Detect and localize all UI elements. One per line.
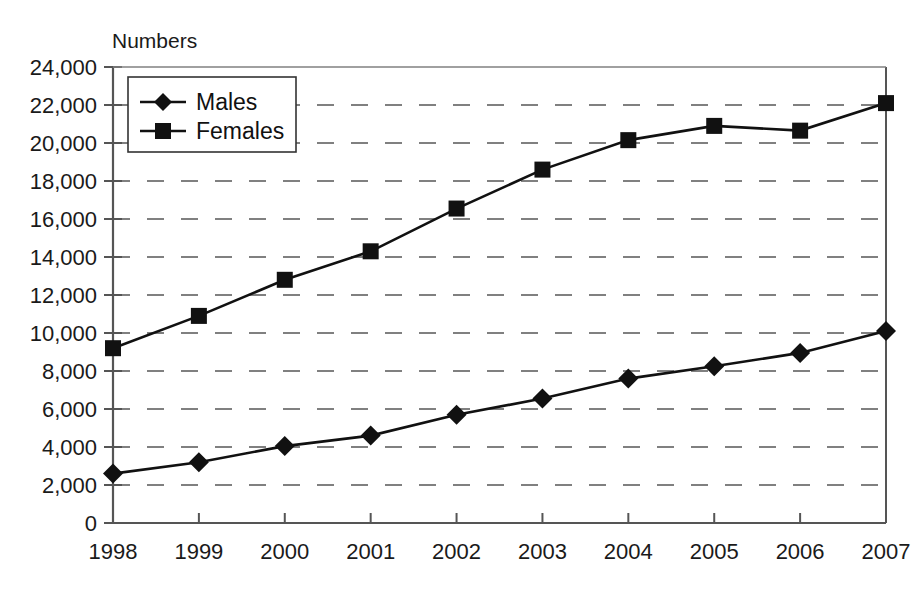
y-axis-tick-label: 6,000: [42, 397, 97, 422]
diamond-marker-icon: [790, 343, 810, 363]
square-marker-icon: [792, 123, 808, 139]
square-marker-icon: [878, 95, 894, 111]
y-axis-tick-label: 20,000: [30, 131, 97, 156]
diamond-marker-icon: [103, 464, 123, 484]
square-marker-icon: [534, 162, 550, 178]
x-axis-tick-label: 1998: [89, 539, 138, 564]
square-marker-icon: [449, 201, 465, 217]
diamond-marker-icon: [275, 436, 295, 456]
square-marker-icon: [620, 132, 636, 148]
legend-label-females: Females: [196, 118, 284, 144]
diamond-marker-icon: [704, 356, 724, 376]
x-axis-tick-label: 2007: [862, 539, 911, 564]
y-axis-tick-label: 2,000: [42, 473, 97, 498]
chart-canvas: Numbers 02,0004,0006,0008,00010,00012,00…: [0, 0, 921, 589]
y-axis-tick-label: 24,000: [30, 55, 97, 80]
series-line: [113, 331, 886, 474]
diamond-marker-icon: [447, 405, 467, 425]
y-axis-tick-labels: 02,0004,0006,0008,00010,00012,00014,0001…: [30, 55, 97, 536]
series-layer: [103, 95, 896, 484]
diamond-marker-icon: [876, 321, 896, 341]
diamond-marker-icon: [189, 452, 209, 472]
gridlines: [113, 105, 886, 485]
x-axis-tick-label: 2003: [518, 539, 567, 564]
x-axis-tick-label: 2002: [432, 539, 481, 564]
square-marker-icon: [155, 123, 171, 139]
y-axis-tick-label: 16,000: [30, 207, 97, 232]
square-marker-icon: [105, 340, 121, 356]
diamond-marker-icon: [532, 389, 552, 409]
x-axis-tick-labels: 1998199920002001200220032004200520062007: [89, 539, 911, 564]
x-axis-tick-label: 2006: [776, 539, 825, 564]
legend-label-males: Males: [196, 89, 257, 115]
y-axis-title: Numbers: [112, 29, 197, 52]
series-males: [103, 321, 896, 484]
x-axis-tick-label: 2000: [260, 539, 309, 564]
diamond-marker-icon: [361, 426, 381, 446]
square-marker-icon: [363, 243, 379, 259]
y-axis-tick-label: 12,000: [30, 283, 97, 308]
y-axis-tick-label: 4,000: [42, 435, 97, 460]
y-axis-tick-label: 22,000: [30, 93, 97, 118]
y-axis-tick-label: 8,000: [42, 359, 97, 384]
y-axis-tick-label: 10,000: [30, 321, 97, 346]
line-chart: Numbers 02,0004,0006,0008,00010,00012,00…: [0, 0, 921, 589]
y-axis-tick-label: 14,000: [30, 245, 97, 270]
x-axis-ticks: [113, 513, 886, 523]
square-marker-icon: [191, 308, 207, 324]
y-axis-tick-label: 18,000: [30, 169, 97, 194]
legend: Males Females: [128, 77, 296, 152]
x-axis-tick-label: 2004: [604, 539, 653, 564]
square-marker-icon: [706, 118, 722, 134]
square-marker-icon: [277, 272, 293, 288]
y-axis-tick-label: 0: [85, 511, 97, 536]
x-axis-tick-label: 2005: [690, 539, 739, 564]
x-axis-tick-label: 2001: [346, 539, 395, 564]
x-axis-tick-label: 1999: [174, 539, 223, 564]
